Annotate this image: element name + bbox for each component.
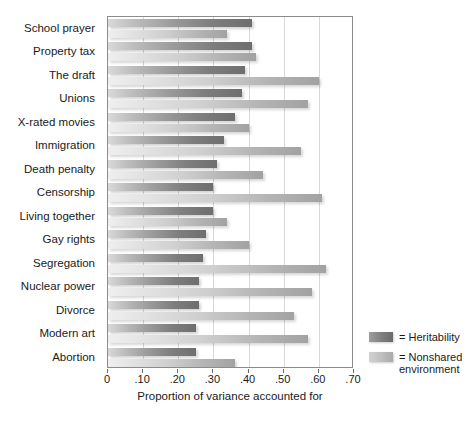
bar-nonshared-environment [108,359,235,367]
chart-legend: = Heritability = Nonshared environment [369,331,468,383]
y-axis-label: Unions [59,92,95,104]
y-axis-label: Modern art [39,327,95,339]
bar-nonshared-environment [108,147,301,155]
bar-heritability [108,89,242,97]
x-tick-label: .50 [275,373,290,385]
bar-heritability [108,301,199,309]
bar-nonshared-environment [108,312,294,320]
bar-heritability [108,207,213,215]
bar-group [108,301,352,322]
bar-heritability [108,66,245,74]
bar-group [108,66,352,87]
bar-group [108,89,352,110]
x-tick-label: .60 [310,373,325,385]
y-axis-label: School prayer [24,22,95,34]
x-tick-label: .10 [134,373,149,385]
y-axis-label: Abortion [52,351,95,363]
bar-heritability [108,277,199,285]
y-axis-label: Censorship [37,186,95,198]
bar-group [108,113,352,134]
bar-group [108,254,352,275]
bar-nonshared-environment [108,171,263,179]
x-axis-title: Proportion of variance accounted for [107,390,353,402]
y-axis-label: Segregation [33,257,95,269]
bar-nonshared-environment [108,194,322,202]
y-axis-label: Death penalty [24,163,95,175]
bar-heritability [108,324,196,332]
y-axis-label: The draft [49,69,95,81]
x-tick-label: .40 [240,373,255,385]
bar-group [108,324,352,345]
bar-nonshared-environment [108,265,326,273]
y-axis-label: X-rated movies [18,116,95,128]
bar-group [108,348,352,368]
bar-nonshared-environment [108,53,256,61]
y-axis-label: Nuclear power [21,280,95,292]
bar-nonshared-environment [108,288,312,296]
x-tick-label: .30 [205,373,220,385]
chart-figure: School prayerProperty taxThe draftUnions… [0,0,468,422]
x-axis-tick-labels: 0.10.20.30.40.50.60.70 [107,373,353,389]
bar-group [108,183,352,204]
y-axis-label: Gay rights [43,233,95,245]
legend-label-nonshared-environment: = Nonshared environment [399,351,462,375]
y-axis-label: Immigration [35,139,95,151]
legend-label-heritability: = Heritability [399,331,460,343]
bar-heritability [108,136,224,144]
plot-area [107,16,353,368]
bar-nonshared-environment [108,77,319,85]
bar-heritability [108,230,206,238]
bar-heritability [108,113,235,121]
legend-swatch-nonshared-environment [369,352,393,362]
bar-heritability [108,42,252,50]
x-tick-label: .70 [345,373,360,385]
bar-nonshared-environment [108,335,308,343]
legend-label-nonshared-line1: = Nonshared [399,351,462,363]
bar-group [108,207,352,228]
bar-heritability [108,254,203,262]
bar-group [108,19,352,40]
bar-group [108,42,352,63]
bar-heritability [108,19,252,27]
bar-nonshared-environment [108,124,249,132]
y-axis-label: Living together [20,210,95,222]
bar-nonshared-environment [108,218,227,226]
bar-group [108,136,352,157]
legend-item-nonshared-environment: = Nonshared environment [369,351,468,375]
bar-nonshared-environment [108,30,227,38]
bar-group [108,160,352,181]
bar-group [108,277,352,298]
bar-nonshared-environment [108,100,308,108]
bar-heritability [108,183,213,191]
bar-nonshared-environment [108,241,249,249]
bar-heritability [108,160,217,168]
bar-group [108,230,352,251]
x-tick-label: 0 [104,373,110,385]
y-axis-label: Divorce [56,304,95,316]
x-tick-label: .20 [170,373,185,385]
y-axis-category-labels: School prayerProperty taxThe draftUnions… [0,16,101,368]
bar-heritability [108,348,196,356]
legend-label-nonshared-line2: environment [399,363,460,375]
y-axis-label: Property tax [33,45,95,57]
legend-item-heritability: = Heritability [369,331,468,343]
legend-swatch-heritability [369,332,393,342]
